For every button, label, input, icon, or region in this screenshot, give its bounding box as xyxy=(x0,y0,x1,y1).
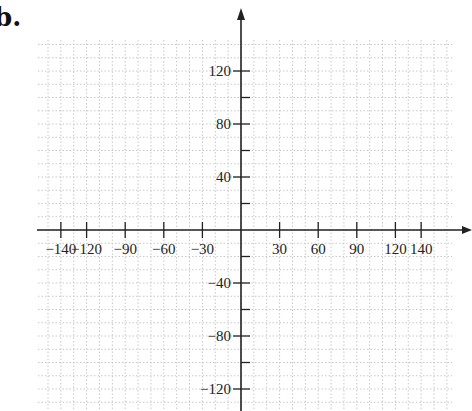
y-tick-label: 40 xyxy=(216,169,231,185)
x-tick-label: 120 xyxy=(384,241,407,257)
y-tick-label: 120 xyxy=(209,63,232,79)
x-tick-label: 140 xyxy=(410,241,433,257)
x-axis-arrow-icon xyxy=(462,226,472,234)
x-tick-label: 60 xyxy=(311,241,326,257)
x-tick-label: 90 xyxy=(349,241,364,257)
x-tick-label: 30 xyxy=(272,241,287,257)
coordinate-plane: −140−120−90−60−303060901201401208040−40−… xyxy=(0,0,472,411)
x-tick-label: −90 xyxy=(113,241,136,257)
grid xyxy=(38,40,452,411)
y-tick-label: −40 xyxy=(208,275,231,291)
x-tick-label: −30 xyxy=(191,241,214,257)
y-tick-label: −120 xyxy=(200,381,231,397)
x-tick-label: −60 xyxy=(152,241,175,257)
y-tick-label: 80 xyxy=(216,116,231,132)
y-tick-label: −80 xyxy=(208,328,231,344)
y-axis-arrow-icon xyxy=(237,8,245,20)
x-tick-label: −120 xyxy=(71,241,102,257)
axes xyxy=(37,8,472,411)
